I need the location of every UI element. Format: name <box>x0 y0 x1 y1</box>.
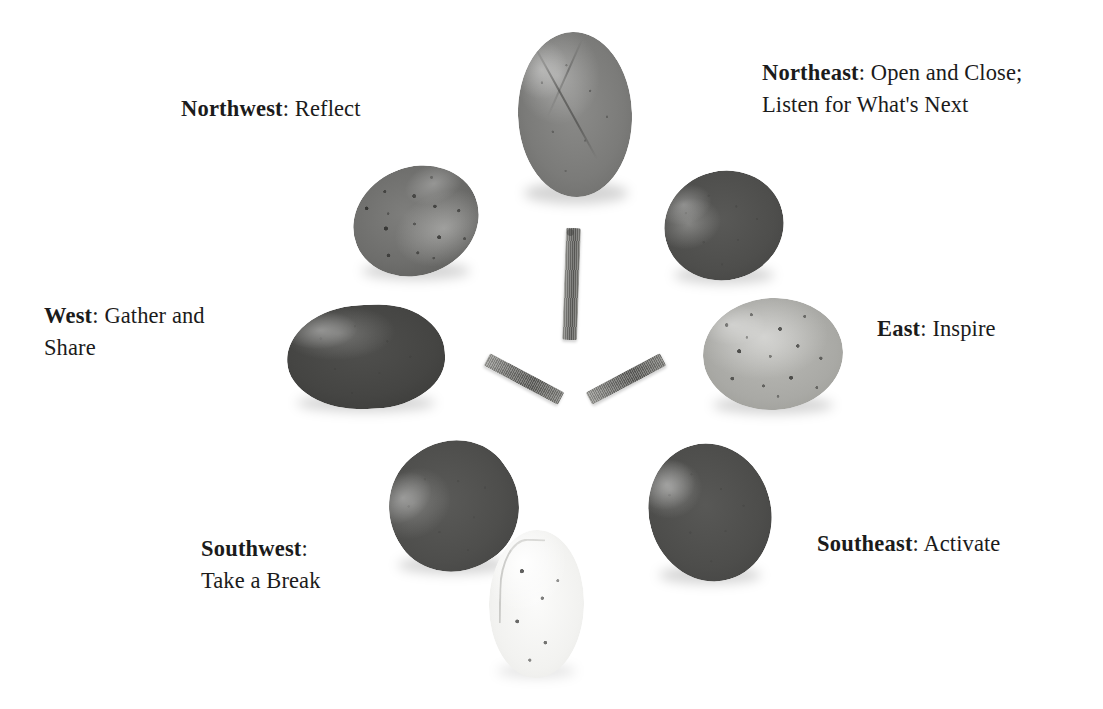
twig-north-knot-icon <box>567 229 574 236</box>
label-southwest-separator: : <box>302 536 308 561</box>
north-stone <box>515 30 635 199</box>
label-northeast-direction: Northeast <box>762 60 859 85</box>
label-southeast-direction: Southeast <box>817 531 913 556</box>
west-stone-body <box>284 301 447 413</box>
twig-southwest <box>484 353 565 405</box>
northwest-stone <box>336 147 495 295</box>
label-east: East: Inspire <box>877 313 996 345</box>
label-southwest: Southwest: Take a Break <box>201 533 321 597</box>
twig-north <box>562 228 581 340</box>
label-northeast: Northeast: Open and Close; Listen for Wh… <box>762 57 1022 121</box>
label-northwest-separator: : <box>283 96 295 121</box>
label-southwest-direction: Southwest <box>201 536 302 561</box>
label-southwest-text: Take a Break <box>201 568 321 593</box>
label-northeast-separator: : <box>859 60 871 85</box>
label-southeast-separator: : <box>913 531 924 556</box>
stone-circle-figure: Northwest: Reflect Northeast: Open and C… <box>0 0 1103 709</box>
label-southeast-text: Activate <box>923 531 1000 556</box>
southeast-stone-body <box>632 429 788 596</box>
south-stone <box>488 529 586 679</box>
east-stone <box>700 294 846 413</box>
label-west: West: Gather and Share <box>44 300 205 364</box>
label-east-separator: : <box>920 316 932 341</box>
twig-southeast <box>586 353 667 405</box>
label-east-text: Inspire <box>932 316 995 341</box>
southeast-stone <box>632 429 788 596</box>
west-stone <box>284 301 447 413</box>
label-west-separator: : <box>92 303 104 328</box>
label-southeast: Southeast: Activate <box>817 528 1000 560</box>
label-west-direction: West <box>44 303 92 328</box>
label-east-direction: East <box>877 316 920 341</box>
label-northwest-direction: Northwest <box>181 96 283 121</box>
label-northwest: Northwest: Reflect <box>181 93 361 125</box>
east-stone-body <box>700 294 846 413</box>
label-northwest-text: Reflect <box>295 96 361 121</box>
northwest-stone-body <box>336 147 495 295</box>
